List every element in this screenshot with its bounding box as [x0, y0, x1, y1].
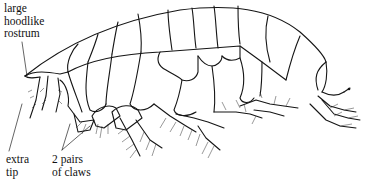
antennae [28, 76, 74, 118]
amphipod-drawing [0, 0, 376, 179]
body-outline [25, 8, 350, 95]
segment-lines [68, 6, 326, 90]
pereopods [118, 92, 298, 158]
uropods [310, 96, 360, 128]
coxal-plates [68, 46, 262, 116]
gnathopods [74, 106, 142, 138]
